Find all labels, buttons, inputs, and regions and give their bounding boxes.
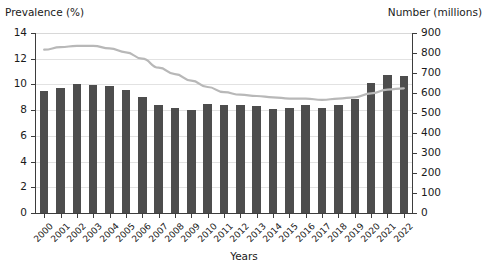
y-tick-label-right: 500	[421, 106, 441, 118]
y-tick-label-left: 6	[0, 129, 27, 141]
prevalence-line-path	[44, 46, 404, 100]
y-tick-right	[413, 53, 417, 54]
prevalence-line-series	[36, 33, 412, 213]
x-tick	[126, 214, 127, 218]
x-tick	[338, 214, 339, 218]
y-tick-left	[31, 33, 35, 34]
x-tick	[404, 214, 405, 218]
y-tick-label-left: 14	[0, 26, 27, 38]
x-tick	[355, 214, 356, 218]
y-tick-left	[31, 213, 35, 214]
y-tick-label-right: 900	[421, 26, 441, 38]
y-tick-label-right: 200	[421, 166, 441, 178]
y-tick-left	[31, 136, 35, 137]
y-tick-label-left: 0	[0, 206, 27, 218]
y-tick-right	[413, 93, 417, 94]
x-tick	[142, 214, 143, 218]
chart-container: Prevalence (%) Number (millions) Years 0…	[0, 0, 488, 274]
y-tick-label-right: 100	[421, 186, 441, 198]
x-tick	[387, 214, 388, 218]
x-tick	[61, 214, 62, 218]
y-tick-label-left: 2	[0, 180, 27, 192]
x-tick	[322, 214, 323, 218]
y-axis-right-line	[412, 33, 413, 214]
x-tick	[208, 214, 209, 218]
x-tick	[110, 214, 111, 218]
y-tick-label-left: 10	[0, 77, 27, 89]
x-tick	[44, 214, 45, 218]
y-tick-right	[413, 73, 417, 74]
y-tick-right	[413, 33, 417, 34]
y-tick-label-right: 800	[421, 46, 441, 58]
y-tick-left	[31, 162, 35, 163]
right-axis-title: Number (millions)	[388, 6, 482, 18]
y-tick-label-right: 400	[421, 126, 441, 138]
y-tick-label-left: 4	[0, 155, 27, 167]
x-tick	[371, 214, 372, 218]
x-tick	[273, 214, 274, 218]
x-tick	[77, 214, 78, 218]
y-tick-right	[413, 213, 417, 214]
x-tick	[191, 214, 192, 218]
y-tick-label-right: 300	[421, 146, 441, 158]
plot-area	[36, 33, 412, 213]
x-tick	[257, 214, 258, 218]
x-tick	[306, 214, 307, 218]
x-tick	[175, 214, 176, 218]
y-tick-left	[31, 84, 35, 85]
y-tick-label-left: 8	[0, 103, 27, 115]
y-tick-label-left: 12	[0, 52, 27, 64]
y-tick-right	[413, 193, 417, 194]
y-tick-label-right: 600	[421, 86, 441, 98]
x-tick	[159, 214, 160, 218]
y-tick-left	[31, 187, 35, 188]
y-tick-right	[413, 153, 417, 154]
y-tick-right	[413, 133, 417, 134]
left-axis-title: Prevalence (%)	[5, 6, 84, 18]
x-tick	[93, 214, 94, 218]
y-tick-label-right: 700	[421, 66, 441, 78]
y-tick-right	[413, 113, 417, 114]
y-tick-label-right: 0	[421, 206, 428, 218]
x-tick	[240, 214, 241, 218]
x-tick	[224, 214, 225, 218]
y-tick-left	[31, 110, 35, 111]
y-tick-left	[31, 59, 35, 60]
x-tick	[289, 214, 290, 218]
y-tick-right	[413, 173, 417, 174]
